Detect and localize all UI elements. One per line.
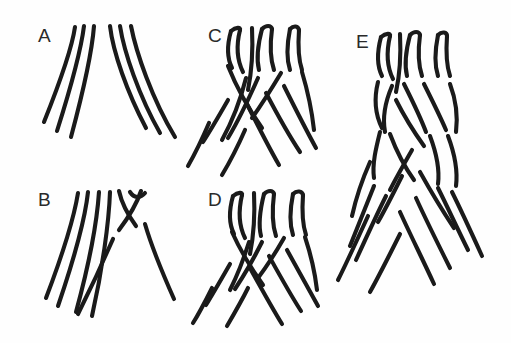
strand-segment: [231, 28, 240, 31]
panel-label-e: E: [356, 31, 369, 52]
strand-segment: [233, 193, 242, 196]
strand-segment: [381, 34, 390, 37]
panel-label-a: A: [38, 25, 51, 46]
panel-label-d: D: [208, 189, 222, 210]
fiber-crossing-figure: ABCDE: [0, 0, 511, 343]
figure-root: ABCDE: [0, 0, 511, 343]
panel-label-b: B: [38, 189, 51, 210]
panel-label-c: C: [208, 25, 222, 46]
